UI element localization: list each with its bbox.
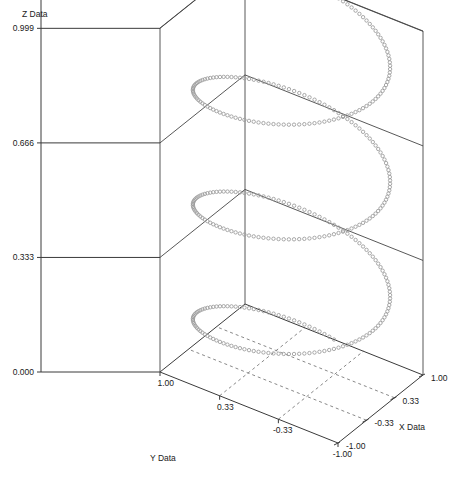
y-axis-title: Y Data [150, 453, 176, 463]
helix-marker [328, 234, 331, 237]
helix-marker [328, 348, 331, 351]
helix-marker [354, 238, 357, 241]
helix-marker [238, 346, 241, 349]
helix-marker [215, 339, 218, 342]
helix-marker [287, 202, 290, 205]
helix-marker [354, 225, 357, 228]
helix-marker [323, 349, 326, 352]
helix-marker [215, 224, 218, 227]
helix-marker [303, 122, 306, 125]
helix-marker [243, 191, 246, 194]
helix-marker [318, 100, 321, 103]
helix-marker [287, 123, 290, 126]
plot-root: 0.9990.6660.3330.0001.000.33-0.33-1.001.… [0, 0, 456, 485]
helix-marker [267, 122, 270, 125]
helix-marker [354, 124, 357, 127]
helix-marker [377, 33, 380, 36]
helix-marker [243, 77, 246, 80]
helix-marker [277, 123, 280, 126]
helix-marker [365, 248, 368, 251]
helix-marker [287, 87, 290, 90]
helix-marker [346, 232, 349, 235]
helix-marker [297, 237, 300, 240]
helix-marker [386, 280, 389, 283]
helix-marker [277, 199, 280, 202]
axis-lines [41, 0, 160, 372]
helix-marker [230, 115, 233, 118]
helix-marker [379, 151, 382, 154]
z-tick-label-3: 0.000 [13, 367, 35, 377]
x-axis-title: X Data [399, 422, 425, 432]
helix-marker [234, 231, 237, 234]
helix-marker [272, 83, 275, 86]
helix-marker [292, 123, 295, 126]
helix-marker [226, 75, 229, 78]
helix-marker [257, 350, 260, 353]
helix-marker [377, 147, 380, 150]
helix-marker [337, 117, 340, 120]
helix-marker [388, 182, 391, 185]
helix-marker [298, 91, 301, 94]
helix-marker [222, 75, 225, 78]
helix-marker [354, 9, 357, 12]
floor-grid-y-2 [278, 351, 363, 419]
helix-marker [277, 237, 280, 240]
helix-marker [388, 297, 391, 300]
helix-marker [257, 235, 260, 238]
x-tick-label-0: 1.00 [431, 373, 448, 383]
x-tick-label-2: -0.33 [374, 418, 394, 428]
helix-marker [313, 213, 316, 216]
helix-marker [387, 168, 390, 171]
helix-marker [272, 237, 275, 240]
helix-marker [358, 338, 361, 341]
helix-marker [379, 36, 382, 39]
wall-grid-lines [160, 0, 423, 260]
helix-marker [230, 305, 233, 308]
helix-marker [218, 226, 221, 229]
helix-marker [272, 197, 275, 200]
helix-marker [308, 237, 311, 240]
helix-marker [247, 307, 250, 310]
helix-marker [388, 287, 391, 290]
helix-marker [374, 258, 377, 261]
plot-box-edges [160, 0, 423, 443]
y-tick-label-1: 0.33 [217, 402, 234, 412]
helix-marker [368, 137, 371, 140]
helix-marker [332, 347, 335, 350]
helix-marker [388, 64, 391, 67]
helix-marker [282, 123, 285, 126]
helix-marker [379, 265, 382, 268]
helix-marker [361, 106, 364, 109]
helix-marker [381, 154, 384, 157]
helix-marker [337, 231, 340, 234]
floor-edge-back-left [160, 304, 245, 372]
helix-marker [222, 305, 225, 308]
helix-marker [238, 117, 241, 120]
helix-marker [252, 349, 255, 352]
helix-marker [222, 227, 225, 230]
helix-marker [215, 109, 218, 112]
helix-marker [323, 120, 326, 123]
helix-marker [230, 230, 233, 233]
helix-marker [303, 237, 306, 240]
helix-marker [292, 204, 295, 207]
helix-marker [243, 233, 246, 236]
helix-marker [313, 98, 316, 101]
helix-marker [384, 47, 387, 50]
helix-marker [218, 190, 221, 193]
helix-marker [267, 237, 270, 240]
helix-marker [287, 317, 290, 320]
helix-marker [243, 348, 246, 351]
helix-marker [388, 290, 391, 293]
helix-marker [234, 345, 237, 348]
helix-marker [388, 57, 391, 60]
helix-marker [323, 235, 326, 238]
helix-marker [282, 86, 285, 89]
helix-marker [318, 350, 321, 353]
floor-grid-x-2 [188, 349, 366, 420]
helix-marker [247, 119, 250, 122]
helix-marker [226, 343, 229, 346]
helix-marker [262, 351, 265, 354]
helix-marker [230, 75, 233, 78]
helix-marker [243, 306, 246, 309]
